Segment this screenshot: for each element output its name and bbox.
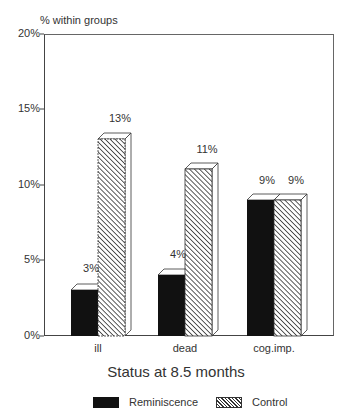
category-cog-imp: cog.imp. xyxy=(244,342,304,354)
category-dead: dead xyxy=(155,342,215,354)
legend-item-control: Control xyxy=(216,396,287,408)
legend-label-control: Control xyxy=(252,396,287,408)
value-cogimp-reminiscence: 9% xyxy=(252,174,282,186)
category-ill: ill xyxy=(68,342,128,354)
value-ill-control: 13% xyxy=(105,112,135,124)
x-axis-title: Status at 8.5 months xyxy=(0,363,352,380)
value-cogimp-control: 9% xyxy=(281,174,311,186)
legend-label-reminiscence: Reminiscence xyxy=(129,396,198,408)
legend-swatch-black-icon xyxy=(93,397,119,408)
legend-item-reminiscence: Reminiscence xyxy=(93,396,198,408)
bar-cogimp-control xyxy=(274,194,307,336)
value-ill-reminiscence: 3% xyxy=(76,262,106,274)
bar-ill-control xyxy=(98,133,131,336)
value-dead-reminiscence: 4% xyxy=(163,248,193,260)
bars-layer xyxy=(0,0,352,419)
value-dead-control: 11% xyxy=(192,143,222,155)
legend-swatch-hatched-icon xyxy=(216,397,242,408)
